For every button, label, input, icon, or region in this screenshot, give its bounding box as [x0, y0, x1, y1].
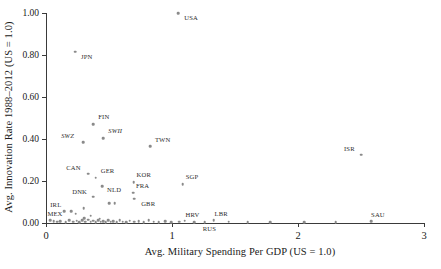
scatter-point-hrv — [183, 220, 186, 223]
scatter-point — [72, 220, 75, 223]
point-label-twn: TWN — [155, 136, 170, 143]
scatter-point-irl — [63, 210, 66, 213]
scatter-point — [193, 221, 196, 224]
x-tick-mark — [298, 223, 299, 227]
scatter-point — [108, 202, 111, 205]
scatter-point — [68, 219, 71, 222]
scatter-point — [178, 220, 181, 223]
scatter-point-isr — [360, 153, 363, 156]
x-tick-mark — [424, 223, 425, 227]
point-label-usa: USA — [184, 14, 198, 21]
scatter-point-swz — [82, 141, 85, 144]
scatter-point-mex — [49, 219, 52, 222]
scatter-point — [142, 221, 145, 224]
y-tick-mark — [42, 139, 46, 140]
scatter-point — [52, 220, 55, 223]
point-label-swii: SWII — [108, 127, 122, 134]
scatter-point — [133, 220, 136, 223]
y-tick-label: 0.80 — [22, 50, 39, 60]
scatter-point — [227, 220, 230, 223]
scatter-point-rus — [203, 221, 206, 224]
scatter-point — [170, 221, 173, 224]
point-label-hrv: HRV — [186, 211, 200, 218]
scatter-point-swii — [102, 137, 105, 140]
y-tick-label: 0.60 — [22, 92, 39, 102]
scatter-point-ger — [94, 177, 97, 180]
scatter-point — [246, 221, 249, 224]
scatter-point-fin — [92, 123, 95, 126]
x-tick-label: 3 — [421, 230, 426, 241]
point-label-rus: RUS — [203, 225, 216, 232]
point-label-can: CAN — [66, 164, 80, 171]
y-tick-label: 0.20 — [22, 176, 39, 186]
x-tick-label: 0 — [43, 230, 48, 241]
scatter-point-sgp — [181, 183, 184, 186]
point-label-kor: KOR — [137, 171, 151, 178]
y-tick-label: 0.40 — [22, 134, 39, 144]
y-tick-label: 0.00 — [22, 218, 39, 228]
y-tick-mark — [42, 181, 46, 182]
x-tick-label: 2 — [295, 230, 300, 241]
scatter-point — [125, 221, 128, 224]
scatter-point-gbr — [133, 198, 136, 201]
scatter-point-twn — [149, 145, 152, 148]
scatter-point-kor — [132, 181, 135, 184]
scatter-point — [83, 217, 86, 220]
point-label-ger: GER — [101, 167, 115, 174]
y-tick-label: 1.00 — [22, 8, 39, 18]
point-label-mex: MEX — [47, 210, 62, 217]
scatter-point-usa — [177, 12, 180, 15]
scatter-point — [89, 214, 92, 217]
point-label-jpn: JPN — [81, 53, 92, 60]
y-axis-title: Avg. Innovation Rate 1988–2012 (US = 1.0… — [3, 2, 19, 232]
x-axis-title: Avg. Military Spending Per GDP (US = 1.0… — [45, 246, 435, 257]
point-label-sgp: SGP — [186, 173, 199, 180]
scatter-point — [59, 220, 62, 223]
scatter-point-fra — [132, 191, 135, 194]
x-tick-mark — [172, 223, 173, 227]
scatter-point — [83, 207, 86, 210]
y-tick-mark — [42, 97, 46, 98]
point-label-isr: ISR — [344, 145, 355, 152]
scatter-point — [335, 221, 338, 224]
y-tick-mark — [42, 55, 46, 56]
scatter-point — [113, 202, 116, 205]
point-label-fra: FRA — [136, 182, 149, 189]
point-label-dnk: DNK — [72, 188, 87, 195]
y-tick-mark — [42, 13, 46, 14]
point-label-nld: NLD — [107, 186, 121, 193]
point-label-irl: IRL — [50, 201, 61, 208]
point-label-swz: SWZ — [61, 132, 74, 139]
point-label-lbr: LBR — [215, 210, 228, 217]
plot-area: 0.000.200.400.600.801.00 0123 USAJPNFINS… — [46, 13, 424, 223]
point-label-gbr: GBR — [141, 200, 155, 207]
scatter-point — [137, 220, 140, 223]
scatter-point — [74, 212, 77, 215]
scatter-point-nld — [101, 185, 104, 188]
scatter-point — [152, 220, 155, 223]
point-label-fin: FIN — [98, 113, 109, 120]
scatter-point — [147, 219, 150, 222]
x-tick-mark — [46, 223, 47, 227]
scatter-point-can — [87, 172, 90, 175]
scatter-point — [128, 220, 131, 223]
scatter-point — [70, 210, 73, 213]
x-axis-line — [46, 223, 425, 224]
scatter-point-jpn — [74, 51, 77, 54]
scatter-point — [269, 221, 272, 224]
x-tick-label: 1 — [169, 230, 174, 241]
scatter-point — [157, 221, 160, 224]
chart-page: Avg. Innovation Rate 1988–2012 (US = 1.0… — [0, 0, 441, 269]
scatter-point — [64, 221, 67, 224]
scatter-point — [303, 221, 306, 224]
scatter-point — [164, 220, 167, 223]
scatter-point-sau — [370, 220, 373, 223]
scatter-point-dnk — [92, 195, 95, 198]
scatter-point — [84, 220, 87, 223]
scatter-point-lbr — [212, 219, 215, 222]
point-label-sau: SAU — [371, 211, 385, 218]
